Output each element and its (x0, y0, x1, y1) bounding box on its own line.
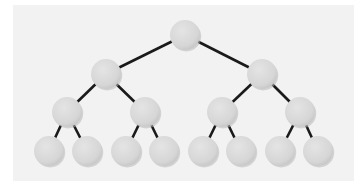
tree-node (265, 136, 295, 166)
tree-node (247, 59, 277, 89)
tree-node (303, 136, 333, 166)
tree-node (111, 136, 141, 166)
tree-edges (49, 35, 318, 151)
tree-node (170, 20, 200, 50)
tree-nodes (34, 20, 334, 168)
tree-node (52, 97, 82, 127)
tree-node (72, 136, 102, 166)
tree-node (34, 136, 64, 166)
tree-node (149, 136, 179, 166)
tree-node (226, 136, 256, 166)
tree-node (91, 59, 121, 89)
tree-node (130, 97, 160, 127)
tree-node (207, 97, 237, 127)
tree-node (188, 136, 218, 166)
tree-node (285, 97, 315, 127)
binary-tree-diagram (0, 0, 354, 186)
